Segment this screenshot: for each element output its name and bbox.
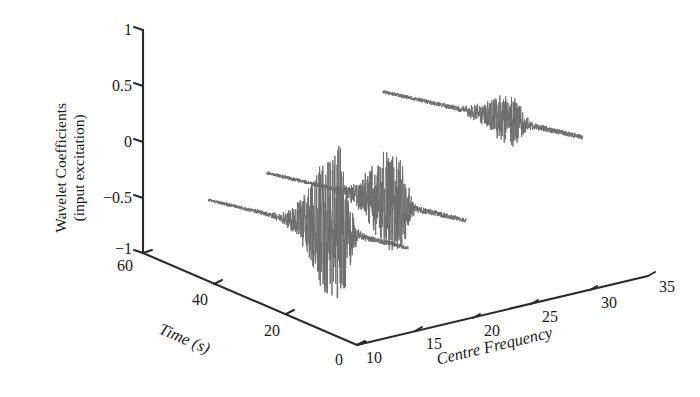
z-tick-m1 (134, 250, 143, 253)
y-tick-35 (648, 272, 655, 276)
x-tick-label-60: 60 (110, 258, 140, 274)
y-tick-label-10: 10 (361, 350, 387, 366)
x-tick-label-20: 20 (257, 323, 287, 339)
x-tick-20 (286, 310, 294, 314)
x-tick-label-0: 0 (330, 352, 348, 368)
z-axis-title-line2: (input excitation) (70, 53, 88, 283)
z-tick-label-0: 0 (110, 134, 132, 150)
y-tick-10 (357, 342, 366, 345)
x-tick-60 (143, 250, 152, 253)
z-tick-0p5 (134, 83, 143, 86)
z-tick-1 (134, 27, 143, 30)
z-tick-label-1: 1 (110, 22, 132, 38)
z-tick-label-0p5: 0.5 (96, 78, 132, 94)
x-tick-label-40: 40 (185, 292, 215, 308)
wavelet-trace-high-frequency (383, 90, 583, 146)
z-tick-label-m0p5: −0.5 (84, 190, 132, 206)
z-tick-m0p5 (134, 195, 143, 198)
z-axis-title: Wavelet Coefficients (input excitation) (52, 53, 88, 283)
y-tick-label-25: 25 (537, 309, 563, 325)
wavelet-traces-group (208, 90, 582, 298)
x-tick-40 (214, 280, 222, 284)
y-tick-label-35: 35 (654, 279, 680, 295)
wavelet-3d-waterfall-figure: 1 0.5 0 −0.5 −1 60 40 20 0 10 15 20 25 3… (0, 0, 700, 397)
z-tick-label-m1: −1 (96, 241, 132, 257)
z-tick-0 (134, 139, 143, 142)
z-axis-title-line1: Wavelet Coefficients (52, 53, 70, 283)
y-tick-label-30: 30 (596, 295, 622, 311)
